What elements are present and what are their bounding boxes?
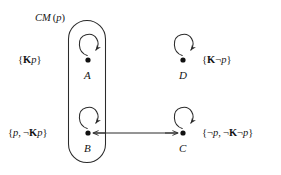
node-c-dot[interactable]	[180, 130, 185, 135]
valuation-label-d: {K¬p}	[202, 55, 231, 66]
valuation-c-text: {¬p, ¬K¬p}	[202, 127, 253, 138]
valuation-b-text: {p, ¬Kp}	[8, 127, 47, 138]
kripke-model-figure: CM (p) {Kp} {K¬p} {p, ¬Kp} {¬p, ¬K¬p} A …	[0, 0, 281, 175]
valuation-a-text: {Kp}	[18, 54, 42, 65]
valuation-label-b: {p, ¬Kp}	[8, 128, 47, 139]
node-label-a: A	[84, 70, 91, 81]
self-loop-d	[174, 34, 193, 55]
self-loop-b	[79, 107, 98, 128]
node-b-dot[interactable]	[85, 130, 90, 135]
region-label-prop: p	[56, 12, 61, 23]
diagram-canvas	[0, 0, 281, 175]
self-loop-a	[79, 34, 98, 55]
node-a-dot[interactable]	[85, 57, 90, 62]
node-label-c: C	[179, 143, 186, 154]
node-label-d: D	[179, 70, 187, 81]
node-d-dot[interactable]	[180, 57, 185, 62]
region-label-arg: (p)	[51, 12, 65, 23]
region-label-cm-p: CM (p)	[35, 13, 65, 24]
region-label-head: CM	[35, 12, 51, 23]
valuation-d-text: {K¬p}	[202, 54, 231, 65]
node-label-b: B	[84, 143, 91, 154]
self-loop-c	[174, 107, 193, 128]
valuation-label-c: {¬p, ¬K¬p}	[202, 128, 253, 139]
valuation-label-a: {Kp}	[18, 55, 42, 66]
